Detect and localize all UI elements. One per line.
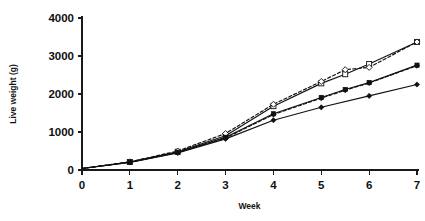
data-point-marker (319, 105, 324, 110)
x-tick-label: 1 (127, 179, 134, 191)
series-filled-diamond-dashed (82, 63, 420, 168)
series-open-square-solid (82, 39, 420, 168)
x-tick-label: 2 (175, 179, 181, 191)
y-tick-label: 2000 (48, 88, 74, 100)
series-line (82, 42, 417, 169)
y-tick-label: 3000 (48, 50, 74, 62)
series-line (82, 42, 417, 169)
data-point-marker (414, 82, 419, 87)
x-tick-label: 7 (414, 179, 420, 191)
x-tick-label: 0 (79, 179, 85, 191)
x-axis-title: Week (238, 201, 260, 211)
x-tick-label: 3 (222, 179, 228, 191)
y-tick-label: 4000 (48, 12, 74, 24)
x-axis-ticks: 01234567 (79, 170, 420, 191)
data-point-marker (271, 118, 276, 123)
chart-container: 01000200030004000 01234567 Week Live wei… (0, 0, 425, 221)
y-tick-label: 1000 (48, 126, 74, 138)
y-tick-label: 0 (68, 164, 74, 176)
data-point-marker (367, 93, 372, 98)
series-open-diamond-dashed (82, 39, 420, 169)
series-filled-square-solid (82, 63, 419, 168)
y-axis-ticks: 01000200030004000 (48, 12, 82, 176)
y-axis-title: Live weight (g) (8, 64, 18, 124)
series-group (82, 39, 420, 169)
x-tick-label: 5 (318, 179, 325, 191)
x-tick-label: 6 (366, 179, 372, 191)
x-tick-label: 4 (270, 179, 277, 191)
line-chart: 01000200030004000 01234567 Week Live wei… (0, 0, 425, 221)
